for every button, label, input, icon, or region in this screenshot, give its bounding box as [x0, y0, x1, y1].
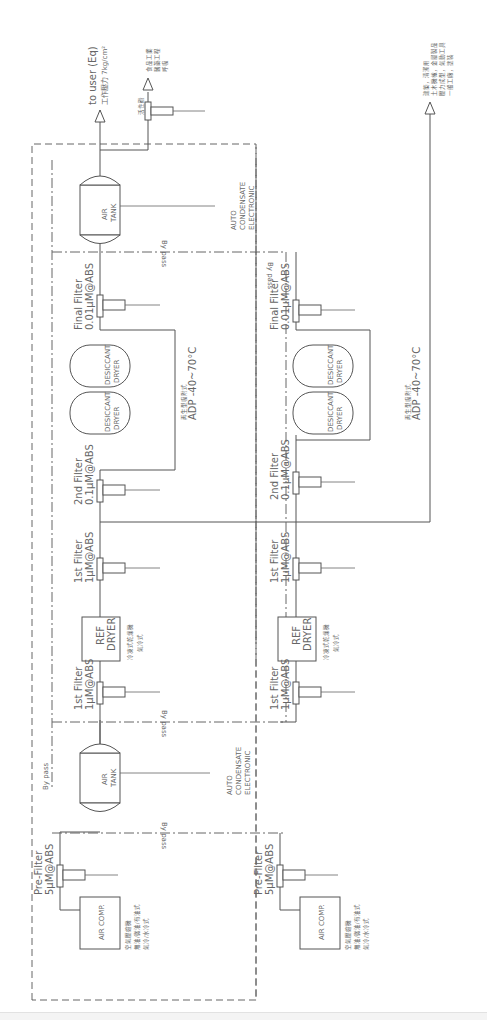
svg-text:ADP -40~70°C: ADP -40~70°C — [411, 347, 422, 420]
activated-carbon-filter — [145, 102, 151, 120]
svg-text:1µM@ABS: 1µM@ABS — [280, 532, 291, 583]
svg-text:2nd Filter: 2nd Filter — [73, 457, 84, 505]
svg-text:1µM@ABS: 1µM@ABS — [84, 659, 95, 710]
svg-text:TANK: TANK — [110, 203, 118, 223]
svg-text:冷凍式乾燥機: 冷凍式乾燥機 — [126, 624, 134, 660]
svg-text:氣冷/水冷式: 氣冷/水冷式 — [142, 918, 150, 950]
air-comp-b: AIR COMP. 空氣壓縮機 無油/微油/有油式 氣冷/水冷式 — [280, 897, 370, 950]
svg-text:DESICCANT: DESICCANT — [104, 391, 112, 432]
svg-text:Pre-Filter: Pre-Filter — [33, 850, 44, 895]
desiccant-dryers-a: DESICCANT DRYER DESICCANT DRYER 再生型吸附式 A… — [70, 344, 198, 434]
svg-text:5µM@ABS: 5µM@ABS — [44, 844, 55, 895]
final-filter-a: Final Filter 0.01µM@ABS — [73, 263, 160, 330]
bypass-labels: By pass By pass By pass By pass — [160, 240, 274, 850]
svg-text:DRYER: DRYER — [113, 359, 121, 383]
pre-filter-b: Pre-Filter 5µM@ABS — [253, 844, 338, 895]
svg-text:ELECTRONIC: ELECTRONIC — [248, 185, 256, 230]
svg-text:CONDENSATE: CONDENSATE — [239, 182, 247, 230]
outlet-food: 活性碳 食品工業 醫藥工程 呼吸 — [137, 48, 205, 130]
svg-text:食品工業: 食品工業 — [145, 48, 153, 72]
filter-1a-b: 1st Filter 1µM@ABS — [269, 659, 355, 710]
svg-text:DRYER: DRYER — [302, 618, 313, 651]
svg-text:DRYER: DRYER — [336, 406, 344, 430]
filter-2-b: 2nd Filter 0.1µM@ABS — [269, 439, 355, 500]
svg-text:1µM@ABS: 1µM@ABS — [280, 659, 291, 710]
svg-text:0.1µM@ABS: 0.1µM@ABS — [280, 439, 291, 500]
svg-text:DESICCANT: DESICCANT — [327, 391, 335, 432]
svg-text:0.1µM@ABS: 0.1µM@ABS — [84, 444, 95, 505]
svg-text:1st Filter: 1st Filter — [269, 539, 280, 583]
svg-text:REF: REF — [95, 626, 106, 645]
outlet-to-user: to user (Eq) 工作壓力 7kg/cm² — [87, 46, 109, 122]
svg-text:DRYER: DRYER — [106, 618, 117, 651]
outlet-general: 建築，清潔用 土木機械，金屬製品 壓力成型，氣動工具 一般工廠，塗裝 — [422, 42, 454, 114]
filter-1a-a: 1st Filter 1µM@ABS — [73, 659, 160, 710]
svg-text:TANK: TANK — [110, 768, 118, 788]
svg-text:土木機械，金屬製品: 土木機械，金屬製品 — [430, 42, 438, 96]
arrow-up-icon — [143, 78, 153, 90]
svg-text:DRYER: DRYER — [336, 359, 344, 383]
svg-text:0.01µM@ABS: 0.01µM@ABS — [280, 263, 291, 330]
svg-text:冷凍式乾燥機: 冷凍式乾燥機 — [322, 624, 330, 660]
svg-text:DESICCANT: DESICCANT — [327, 344, 335, 385]
svg-text:By pass: By pass — [160, 710, 168, 738]
svg-text:1st Filter: 1st Filter — [73, 539, 84, 583]
svg-text:一般工廠，塗裝: 一般工廠，塗裝 — [446, 54, 454, 96]
svg-text:REF: REF — [291, 626, 302, 645]
svg-text:By pass: By pass — [42, 762, 50, 790]
svg-text:無油/微油/有油式: 無油/微油/有油式 — [353, 904, 361, 950]
desiccant-dryers-b: DESICCANT DRYER DESICCANT DRYER 再生型吸附式 A… — [293, 344, 422, 434]
filter-1b-b: 1st Filter 1µM@ABS — [269, 532, 355, 583]
svg-text:醫藥工程: 醫藥工程 — [153, 48, 161, 72]
svg-text:Pre-Filter: Pre-Filter — [253, 850, 264, 895]
svg-text:ELECTRONIC: ELECTRONIC — [244, 750, 252, 795]
svg-text:1µM@ABS: 1µM@ABS — [84, 532, 95, 583]
svg-text:氣冷/水冷式: 氣冷/水冷式 — [362, 918, 370, 950]
svg-text:CONDENSATE: CONDENSATE — [235, 747, 243, 795]
ref-dryer-a: REF DRYER 冷凍式乾燥機 氣冷式 — [82, 617, 144, 661]
pressure-label: 工作壓力 7kg/cm² — [100, 46, 109, 105]
to-user-label: to user (Eq) — [87, 46, 98, 105]
svg-text:AIR: AIR — [101, 773, 109, 785]
air-tank-1: AIR TANK AUTO CONDENSATE ELECTRONIC By p… — [42, 744, 252, 812]
svg-text:5µM@ABS: 5µM@ABS — [264, 844, 275, 895]
arrow-up-icon — [425, 102, 435, 114]
svg-text:空氣壓縮機: 空氣壓縮機 — [344, 920, 352, 950]
svg-text:DRYER: DRYER — [113, 406, 121, 430]
svg-text:ADP -40~70°C: ADP -40~70°C — [187, 347, 198, 420]
svg-text:活性碳: 活性碳 — [137, 97, 145, 115]
svg-text:AUTO: AUTO — [230, 210, 238, 230]
filter-1b-a: 1st Filter 1µM@ABS — [73, 532, 160, 583]
svg-text:1st Filter: 1st Filter — [269, 666, 280, 710]
svg-text:呼吸: 呼吸 — [162, 60, 169, 72]
svg-text:Final Filter: Final Filter — [73, 278, 84, 330]
svg-text:AIR COMP.: AIR COMP. — [318, 904, 326, 940]
svg-text:AIR: AIR — [101, 208, 109, 220]
air-comp-a: AIR COMP. 空氣壓縮機 無油/微油/有油式 氣冷/水冷式 — [60, 897, 150, 950]
svg-text:2nd Filter: 2nd Filter — [269, 452, 280, 500]
svg-text:AIR COMP.: AIR COMP. — [98, 904, 106, 940]
svg-text:建築，清潔用: 建築，清潔用 — [422, 60, 430, 96]
air-tank-2: AIR TANK AUTO CONDENSATE ELECTRONIC — [80, 176, 256, 244]
svg-text:DESICCANT: DESICCANT — [104, 344, 112, 385]
svg-text:AUTO: AUTO — [226, 775, 234, 795]
svg-text:空氣壓縮機: 空氣壓縮機 — [124, 920, 132, 950]
final-filter-b: Final Filter 0.01µM@ABS — [269, 263, 355, 330]
svg-text:0.01µM@ABS: 0.01µM@ABS — [84, 263, 95, 330]
pre-filter-a: Pre-Filter 5µM@ABS — [33, 844, 118, 895]
ref-dryer-b: REF DRYER 冷凍式乾燥機 氣冷式 — [278, 617, 340, 661]
svg-text:無油/微油/有油式: 無油/微油/有油式 — [133, 904, 141, 950]
filter-2-a: 2nd Filter 0.1µM@ABS — [73, 444, 160, 505]
svg-text:氣冷式: 氣冷式 — [136, 634, 144, 652]
arrow-up-icon — [95, 110, 105, 122]
svg-text:By pass: By pass — [160, 822, 168, 850]
page-bottom-edge — [0, 1012, 487, 1020]
svg-text:1st Filter: 1st Filter — [73, 666, 84, 710]
svg-text:壓力成型，氣動工具: 壓力成型，氣動工具 — [438, 42, 446, 96]
svg-text:By pass: By pass — [266, 262, 274, 290]
svg-text:氣冷式: 氣冷式 — [332, 634, 340, 652]
svg-text:By pass: By pass — [160, 240, 168, 268]
